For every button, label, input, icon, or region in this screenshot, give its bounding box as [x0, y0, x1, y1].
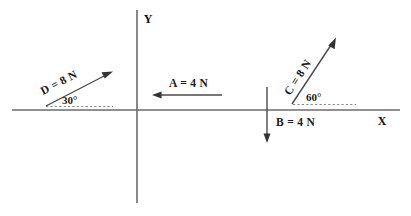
force-diagram-canvas: X Y D = 8 N 30° A = 4 N B = 4 N — [0, 0, 411, 216]
vector-c-group: C = 8 N 60° — [282, 38, 356, 105]
vector-b-arrowhead — [264, 134, 271, 144]
vector-a-label: A = 4 N — [169, 77, 208, 89]
vector-a-arrowhead — [152, 91, 162, 98]
x-axis-label: X — [378, 114, 387, 128]
force-diagram-svg: X Y D = 8 N 30° A = 4 N B = 4 N — [0, 0, 411, 216]
y-axis-label: Y — [144, 12, 153, 26]
vector-b-label: B = 4 N — [276, 116, 315, 128]
vector-d-angle-label: 30° — [62, 94, 77, 106]
vector-a-group: A = 4 N — [152, 77, 222, 99]
vector-c-angle-label: 60° — [306, 91, 321, 103]
vector-d-group: D = 8 N 30° — [38, 68, 113, 107]
vector-d-arrowhead — [102, 72, 114, 79]
